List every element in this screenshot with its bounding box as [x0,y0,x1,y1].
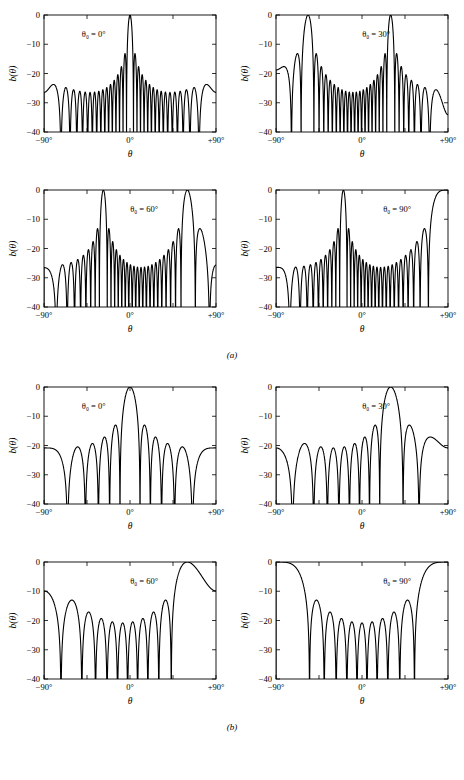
plot-b-0: 0−10−20−30−40−90°0°+90°θb(θ)θ₀ = 0° [0,372,232,547]
x-tick-label: +90° [208,507,225,517]
plot-b-30: 0−10−20−30−40−90°0°+90°θb(θ)θ₀ = 30° [232,372,464,547]
x-tick-label: −90° [36,135,53,145]
x-tick-label: 0° [126,682,134,692]
y-tick-label: 0 [36,382,40,392]
beampattern-curve [44,387,216,504]
steering-angle-annotation: θ₀ = 60° [130,204,158,214]
y-tick-label: −30 [27,645,40,655]
y-tick-label: −10 [259,586,272,596]
x-tick-label: 0° [358,682,366,692]
panel-b-0: 0−10−20−30−40−90°0°+90°θb(θ)θ₀ = 0° [0,372,232,547]
plot-b-90: 0−10−20−30−40−90°0°+90°θb(θ)θ₀ = 90° [232,547,464,722]
y-tick-label: −20 [27,69,40,79]
panel-row-b-top: 0−10−20−30−40−90°0°+90°θb(θ)θ₀ = 0° 0−10… [0,372,464,547]
plot-a-90: 0−10−20−30−40−90°0°+90°θb(θ)θ₀ = 90° [232,175,464,350]
y-tick-label: 0 [268,382,272,392]
y-tick-label: −30 [259,470,272,480]
y-tick-label: −10 [259,214,272,224]
y-tick-label: −20 [259,244,272,254]
x-axis-label: θ [360,149,365,159]
y-axis-label: b(θ) [8,66,19,82]
beampattern-curve [44,15,216,132]
plot-a-0: 0−10−20−30−40−90°0°+90°θb(θ)θ₀ = 0° [0,0,232,175]
beampattern-curve [276,562,448,679]
y-tick-label: −20 [27,616,40,626]
steering-angle-annotation: θ₀ = 60° [130,576,158,586]
x-tick-label: −90° [268,507,285,517]
subfigure-label-a: (a) [0,350,464,360]
panel-a-90: 0−10−20−30−40−90°0°+90°θb(θ)θ₀ = 90° [232,175,464,350]
y-tick-label: −20 [259,616,272,626]
x-axis-label: θ [128,324,133,334]
y-tick-label: −30 [27,273,40,283]
panel-a-60: 0−10−20−30−40−90°0°+90°θb(θ)θ₀ = 60° [0,175,232,350]
x-tick-label: +90° [440,135,457,145]
panel-a-30: 0−10−20−30−40−90°0°+90°θb(θ)θ₀ = 30° [232,0,464,175]
subfigure-label-b: (b) [0,722,464,732]
y-axis-label: b(θ) [240,241,251,257]
plot-a-60: 0−10−20−30−40−90°0°+90°θb(θ)θ₀ = 60° [0,175,232,350]
panel-b-60: 0−10−20−30−40−90°0°+90°θb(θ)θ₀ = 60° [0,547,232,722]
x-axis-label: θ [360,521,365,531]
x-axis-label: θ [128,696,133,706]
y-tick-label: −10 [27,39,40,49]
x-axis-label: θ [128,149,133,159]
steering-angle-annotation: θ₀ = 90° [383,204,411,214]
plot-b-60: 0−10−20−30−40−90°0°+90°θb(θ)θ₀ = 60° [0,547,232,722]
y-tick-label: −30 [27,98,40,108]
panel-a-0: 0−10−20−30−40−90°0°+90°θb(θ)θ₀ = 0° [0,0,232,175]
steering-angle-annotation: θ₀ = 0° [82,29,106,39]
x-axis-label: θ [128,521,133,531]
panel-b-90: 0−10−20−30−40−90°0°+90°θb(θ)θ₀ = 90° [232,547,464,722]
y-axis-label: b(θ) [8,438,19,454]
x-tick-label: −90° [36,310,53,320]
y-tick-label: −30 [259,645,272,655]
y-tick-label: 0 [36,185,40,195]
y-axis-label: b(θ) [240,613,251,629]
figure-group-b: 0−10−20−30−40−90°0°+90°θb(θ)θ₀ = 0° 0−10… [0,372,464,732]
y-tick-label: 0 [268,10,272,20]
plot-frame [44,387,216,504]
y-axis-label: b(θ) [240,66,251,82]
steering-angle-annotation: θ₀ = 0° [82,401,106,411]
x-tick-label: 0° [126,507,134,517]
panel-b-30: 0−10−20−30−40−90°0°+90°θb(θ)θ₀ = 30° [232,372,464,547]
y-tick-label: −20 [27,441,40,451]
x-tick-label: −90° [268,135,285,145]
panel-row-a-bottom: 0−10−20−30−40−90°0°+90°θb(θ)θ₀ = 60° 0−1… [0,175,464,350]
y-tick-label: −10 [259,411,272,421]
x-tick-label: +90° [440,682,457,692]
y-tick-label: −20 [27,244,40,254]
beampattern-figure: 0−10−20−30−40−90°0°+90°θb(θ)θ₀ = 0° 0−10… [0,0,464,780]
y-tick-label: −10 [27,214,40,224]
x-tick-label: 0° [126,310,134,320]
y-axis-label: b(θ) [240,438,251,454]
plot-a-30: 0−10−20−30−40−90°0°+90°θb(θ)θ₀ = 30° [232,0,464,175]
y-tick-label: −30 [27,470,40,480]
y-tick-label: 0 [268,557,272,567]
x-tick-label: −90° [268,310,285,320]
x-axis-label: θ [360,324,365,334]
steering-angle-annotation: θ₀ = 30° [362,401,390,411]
x-tick-label: −90° [36,682,53,692]
x-tick-label: 0° [126,135,134,145]
x-tick-label: +90° [208,135,225,145]
x-tick-label: −90° [268,682,285,692]
x-axis-label: θ [360,696,365,706]
y-tick-label: −20 [259,441,272,451]
plot-frame [44,15,216,132]
x-tick-label: −90° [36,507,53,517]
x-tick-label: 0° [358,310,366,320]
y-tick-label: −10 [259,39,272,49]
x-tick-label: +90° [440,507,457,517]
x-tick-label: +90° [440,310,457,320]
x-tick-label: 0° [358,135,366,145]
beampattern-curve [276,190,448,307]
y-tick-label: −10 [27,411,40,421]
y-tick-label: 0 [268,185,272,195]
y-axis-label: b(θ) [8,241,19,257]
y-tick-label: 0 [36,557,40,567]
y-tick-label: −30 [259,98,272,108]
y-tick-label: −10 [27,586,40,596]
panel-row-a-top: 0−10−20−30−40−90°0°+90°θb(θ)θ₀ = 0° 0−10… [0,0,464,175]
